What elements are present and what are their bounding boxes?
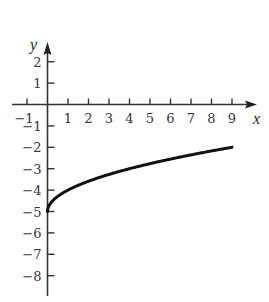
- y-tick-label: −8: [22, 269, 41, 284]
- y-tick-label: 2: [33, 55, 41, 70]
- x-tick-label: 8: [207, 111, 215, 126]
- x-axis-label: x: [252, 110, 260, 127]
- x-tick-label: 4: [125, 111, 133, 126]
- y-tick-label: −5: [22, 205, 41, 220]
- function-graph: −112345678921−1−2−3−4−5−6−7−8 x y: [0, 0, 269, 302]
- function-curve: [48, 147, 233, 211]
- y-axis-label: y: [28, 36, 38, 54]
- y-tick-label: −3: [22, 162, 41, 177]
- x-tick-label: 3: [105, 111, 113, 126]
- x-tick-label: 5: [146, 111, 154, 126]
- y-tick-label: −7: [22, 247, 41, 262]
- y-tick-label: −6: [22, 226, 41, 241]
- y-tick-label: −4: [22, 183, 41, 198]
- y-tick-label: −2: [22, 140, 41, 155]
- x-tick-label: 2: [84, 111, 92, 126]
- x-tick-label: 1: [64, 111, 72, 126]
- y-tick-label: 1: [33, 76, 41, 91]
- x-tick-label: 9: [228, 111, 236, 126]
- x-tick-label: 7: [187, 111, 195, 126]
- y-tick-label: −1: [22, 119, 41, 134]
- x-tick-label: 6: [166, 111, 174, 126]
